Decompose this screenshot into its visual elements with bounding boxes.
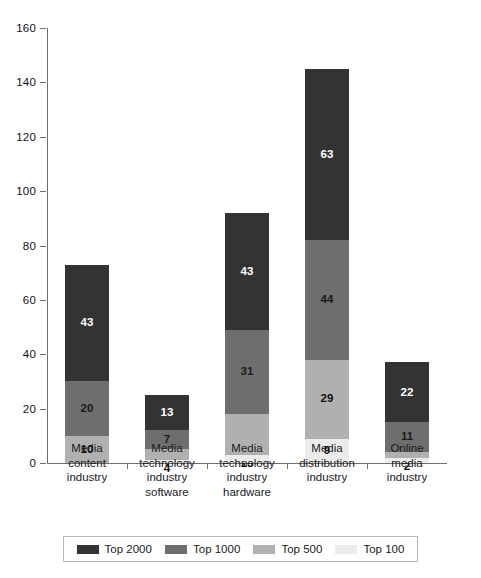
bar-segment: 13	[145, 395, 189, 430]
bar-4: 6344299	[305, 69, 349, 463]
segment-value-label: 22	[401, 387, 414, 399]
legend-label: Top 2000	[105, 543, 152, 555]
segment-value-label: 29	[321, 393, 334, 405]
y-axis-tick-label: 140	[16, 76, 36, 88]
legend-swatch-icon	[77, 545, 99, 554]
bar-segment: 20	[65, 381, 109, 435]
bar-1: 432010	[65, 265, 109, 463]
bar-segment: 63	[305, 69, 349, 240]
y-axis-tick	[40, 82, 46, 83]
bar-segment: 29	[305, 360, 349, 439]
segment-value-label: 44	[321, 294, 334, 306]
y-axis-tick-label: 40	[23, 348, 36, 360]
category-label-5: Onlinemediaindustry	[355, 441, 459, 485]
y-axis-tick	[40, 409, 46, 410]
y-axis-tick-label: 80	[23, 240, 36, 252]
category-label-line: Online	[355, 441, 459, 456]
legend-label: Top 500	[281, 543, 322, 555]
legend-label: Top 100	[363, 543, 404, 555]
y-axis-tick	[40, 28, 46, 29]
legend-item-1[interactable]: Top 2000	[77, 543, 152, 555]
y-axis-tick	[40, 191, 46, 192]
category-label-line: industry	[355, 470, 459, 485]
bar-segment: 22	[385, 362, 429, 422]
segment-value-label: 31	[241, 366, 254, 378]
segment-value-label: 20	[81, 403, 94, 415]
chart-legend: Top 2000Top 1000Top 500Top 100	[63, 536, 418, 562]
segment-value-label: 43	[81, 317, 94, 329]
stacked-bar-chart: 020406080100120140160 432010137443311563…	[0, 0, 481, 578]
legend-item-2[interactable]: Top 1000	[165, 543, 240, 555]
y-axis-tick	[40, 137, 46, 138]
category-label-line: hardware	[195, 485, 299, 500]
legend-swatch-icon	[335, 545, 357, 554]
y-axis-tick-label: 60	[23, 294, 36, 306]
legend-label: Top 1000	[193, 543, 240, 555]
bar-3: 433115	[225, 213, 269, 463]
y-axis-tick-label: 20	[23, 403, 36, 415]
segment-value-label: 63	[321, 149, 334, 161]
category-label-line: media	[355, 456, 459, 471]
bar-segment: 31	[225, 330, 269, 414]
y-axis-tick-label: 100	[16, 185, 36, 197]
segment-value-label: 13	[161, 407, 174, 419]
bar-segment: 43	[225, 213, 269, 330]
bar-segment: 44	[305, 240, 349, 360]
y-axis-tick	[40, 246, 46, 247]
y-axis-tick	[40, 354, 46, 355]
plot-area: 020406080100120140160 432010137443311563…	[47, 28, 447, 463]
y-axis-tick-label: 160	[16, 22, 36, 34]
y-axis-line	[47, 28, 48, 463]
legend-swatch-icon	[253, 545, 275, 554]
segment-value-label: 43	[241, 266, 254, 278]
legend-swatch-icon	[165, 545, 187, 554]
y-axis-tick	[40, 300, 46, 301]
y-axis-tick-label: 120	[16, 131, 36, 143]
legend-item-4[interactable]: Top 100	[335, 543, 404, 555]
legend-item-3[interactable]: Top 500	[253, 543, 322, 555]
bar-segment: 43	[65, 265, 109, 382]
